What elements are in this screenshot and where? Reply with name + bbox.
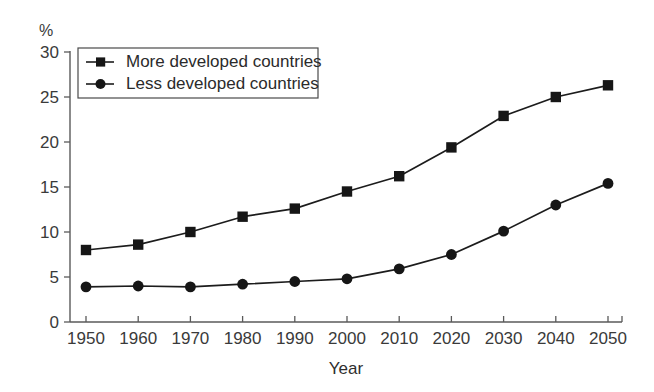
data-point-marker-circle — [81, 282, 92, 293]
x-axis-title: Year — [329, 359, 364, 378]
data-point-marker-square — [237, 212, 247, 222]
x-axis-tick-label: 1980 — [224, 329, 262, 348]
data-point-marker-circle — [237, 279, 248, 290]
data-point-marker-circle — [342, 273, 353, 284]
x-axis-tick-label: 1990 — [276, 329, 314, 348]
x-axis-tick-label: 2000 — [328, 329, 366, 348]
data-point-marker-circle — [289, 276, 300, 287]
data-point-marker-circle — [550, 200, 561, 211]
data-point-marker-circle — [498, 226, 509, 237]
data-point-marker-square — [498, 111, 508, 121]
x-axis-tick-label: 2030 — [485, 329, 523, 348]
data-point-marker-square — [185, 227, 195, 237]
x-axis-tick-label: 2040 — [537, 329, 575, 348]
data-point-marker-square — [446, 142, 456, 152]
data-point-marker-square — [551, 92, 561, 102]
y-axis-tick-label: 15 — [40, 178, 59, 197]
x-axis-tick-label: 2010 — [380, 329, 418, 348]
legend-item-label: More developed countries — [126, 52, 322, 71]
y-axis-tick-label: 20 — [40, 133, 59, 152]
legend-marker-square-icon — [96, 57, 105, 66]
x-axis-tick-label: 2020 — [432, 329, 470, 348]
legend-marker-circle-icon — [96, 79, 106, 89]
y-axis-tick-label: 25 — [40, 88, 59, 107]
series-line-1 — [86, 85, 608, 250]
data-point-marker-circle — [394, 264, 405, 275]
y-axis-tick-label: 10 — [40, 223, 59, 242]
x-axis-tick-label: 1950 — [67, 329, 105, 348]
data-point-marker-circle — [603, 178, 614, 189]
data-point-marker-circle — [185, 282, 196, 293]
y-axis-tick-label: 30 — [40, 43, 59, 62]
x-axis-tick-label: 2050 — [589, 329, 627, 348]
y-axis-unit-label: % — [39, 22, 53, 39]
y-axis-tick-label: 5 — [50, 268, 59, 287]
line-chart-canvas: 051015202530%195019601970198019902000201… — [0, 0, 654, 392]
chart-figure: 051015202530%195019601970198019902000201… — [0, 0, 654, 392]
data-point-marker-square — [133, 239, 143, 249]
data-point-marker-circle — [446, 249, 457, 260]
data-point-marker-square — [342, 186, 352, 196]
x-axis-tick-label: 1960 — [119, 329, 157, 348]
data-point-marker-circle — [133, 281, 144, 292]
data-point-marker-square — [603, 80, 613, 90]
data-point-marker-square — [81, 245, 91, 255]
y-axis-tick-label: 0 — [50, 313, 59, 332]
x-axis-tick-label: 1970 — [171, 329, 209, 348]
data-point-marker-square — [394, 171, 404, 181]
legend-item-label: Less developed countries — [126, 74, 319, 93]
series-line-2 — [86, 183, 608, 287]
data-point-marker-square — [290, 203, 300, 213]
